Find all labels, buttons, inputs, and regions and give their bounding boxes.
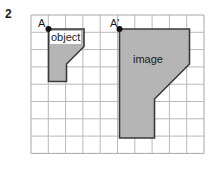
point-a-prime-label: A' xyxy=(110,18,119,29)
geometry-figure: 2 A A' object image xyxy=(0,0,222,169)
image-polygon xyxy=(120,29,190,138)
point-a-label: A xyxy=(38,18,45,29)
image-label: image xyxy=(133,54,163,65)
object-label: object xyxy=(50,31,81,44)
